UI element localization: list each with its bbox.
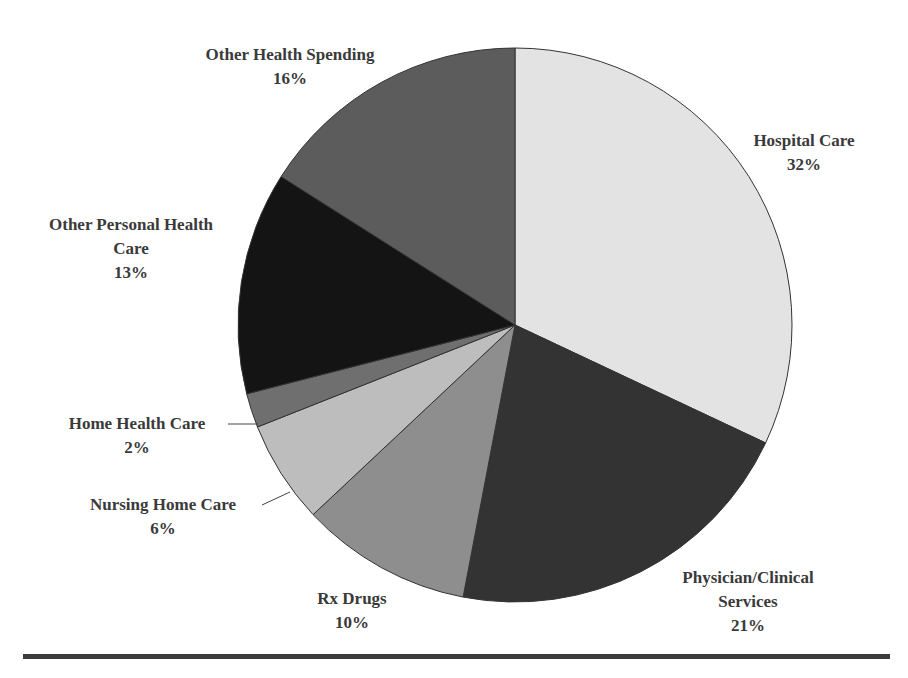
nursing-home-leader-line (262, 492, 290, 505)
bottom-rule-divider (23, 654, 890, 659)
label-physician-clinical-services: Physician/Clinical (682, 568, 814, 587)
pct-hospital-care: 32% (787, 155, 821, 174)
pct-rx-drugs: 10% (335, 613, 369, 632)
label-other-personal-health-care: Other Personal Health (49, 215, 214, 234)
pct-other-health-spending: 16% (273, 69, 307, 88)
label-rx-drugs: Rx Drugs (317, 589, 387, 608)
label-hospital-care: Hospital Care (753, 131, 855, 150)
pct-physician-clinical-services: 21% (731, 616, 765, 635)
label-other-personal-health-care-line2: Care (113, 239, 149, 258)
pie-chart: Other Health Spending 16% Hospital Care … (0, 0, 908, 678)
pct-nursing-home-care: 6% (150, 519, 176, 538)
pie-slices (238, 48, 792, 602)
label-home-health-care: Home Health Care (69, 414, 206, 433)
label-nursing-home-care: Nursing Home Care (90, 495, 237, 514)
label-other-health-spending: Other Health Spending (206, 45, 375, 64)
pct-home-health-care: 2% (124, 438, 150, 457)
pct-other-personal-health-care: 13% (114, 263, 148, 282)
label-physician-clinical-services-line2: Services (718, 592, 778, 611)
